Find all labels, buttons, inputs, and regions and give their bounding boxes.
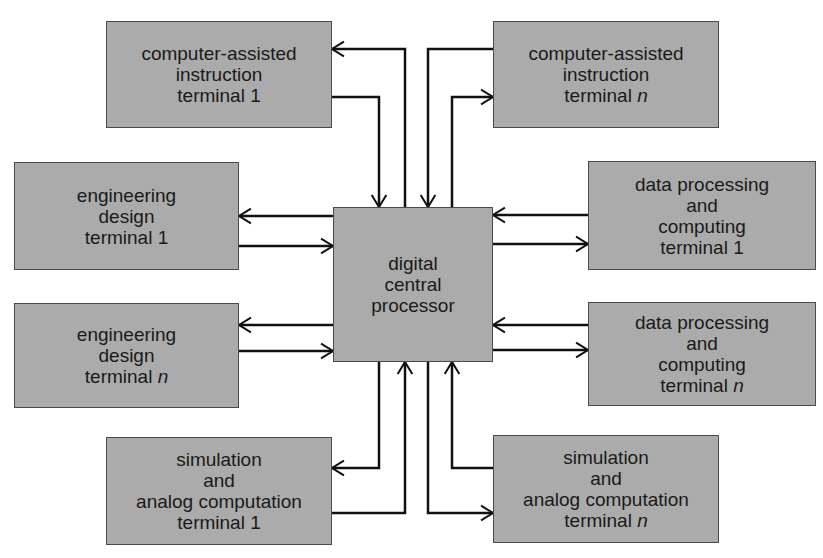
box-label-line: analog computation [136, 491, 302, 512]
box-label-line: engineering [77, 185, 176, 206]
terminal-index: n [637, 85, 648, 106]
box-label-line: terminal n [85, 366, 168, 387]
terminal-index: n [637, 510, 648, 531]
connection-processor-to-sim-n [428, 362, 493, 513]
box-label-line: simulation [563, 447, 649, 468]
box-label-line: processor [371, 295, 454, 316]
box-label-line: instruction [563, 64, 650, 85]
box-label-line: and [686, 195, 718, 216]
box-label-line: terminal 1 [177, 85, 260, 106]
terminal-box-simulation-1: simulationandanalog computationterminal … [106, 437, 332, 545]
box-label-line: terminal n [564, 85, 647, 106]
box-label-line: and [203, 470, 235, 491]
central-processor-box: digitalcentralprocessor [333, 207, 493, 362]
box-label-line: terminal 1 [660, 237, 743, 258]
box-label-line: and [590, 468, 622, 489]
terminal-box-simulation-n: simulationandanalog computationterminal … [493, 435, 719, 543]
box-label-line: terminal n [660, 375, 743, 396]
box-label-line: data processing [635, 174, 769, 195]
box-label-line: instruction [176, 64, 263, 85]
box-label-line: simulation [176, 449, 262, 470]
box-label-line: computing [658, 216, 746, 237]
terminal-box-engineering-1: engineeringdesignterminal 1 [14, 162, 239, 270]
connection-cai-1-to-processor [332, 97, 379, 207]
box-label-line: digital [388, 253, 438, 274]
connection-processor-to-sim-1 [332, 362, 379, 468]
connection-processor-to-cai-n [452, 97, 493, 207]
box-label-line: engineering [77, 324, 176, 345]
box-label-line: design [99, 206, 155, 227]
terminal-box-cai-1: computer-assistedinstructionterminal 1 [106, 21, 332, 128]
box-label-line: computing [658, 354, 746, 375]
connection-cai-n-to-processor [428, 49, 493, 207]
box-label-line: terminal n [564, 510, 647, 531]
connection-sim-1-to-processor [332, 362, 405, 513]
terminal-index: n [158, 366, 169, 387]
box-label-line: analog computation [523, 489, 689, 510]
box-label-line: computer-assisted [528, 43, 683, 64]
terminal-box-engineering-n: engineeringdesignterminal n [14, 303, 239, 408]
box-label-line: terminal 1 [85, 227, 168, 248]
box-label-line: computer-assisted [141, 43, 296, 64]
terminal-index: n [733, 375, 744, 396]
box-label-line: and [686, 333, 718, 354]
box-label-line: design [99, 345, 155, 366]
box-label-line: terminal 1 [177, 512, 260, 533]
box-label-line: central [384, 274, 441, 295]
terminal-box-cai-n: computer-assistedinstructionterminal n [493, 21, 719, 128]
connection-processor-to-cai-1 [332, 49, 405, 207]
terminal-box-data-processing-1: data processingandcomputingterminal 1 [588, 161, 816, 270]
box-label-line: data processing [635, 312, 769, 333]
connection-sim-n-to-processor [452, 362, 493, 468]
terminal-box-data-processing-n: data processingandcomputingterminal n [588, 302, 816, 406]
